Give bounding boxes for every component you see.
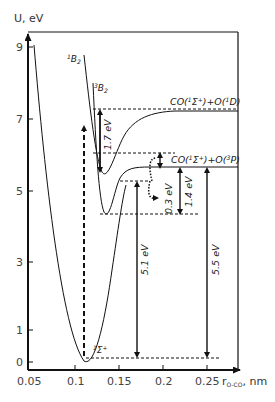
label-asymptote-3p: CO(1Σ+)+O(3P): [171, 154, 240, 165]
label-ground: 1Σ+: [93, 344, 108, 355]
tunneling-arrow: [149, 158, 156, 198]
y-tick-labels: 0 1 3 5 7 9: [16, 41, 23, 369]
label-5-5ev: 5.5 eV: [210, 243, 221, 275]
y-tick-0: 0: [16, 356, 23, 369]
label-1-4ev: 1.4 eV: [183, 175, 194, 207]
y-tick-1: 1: [16, 324, 23, 337]
x-tick-labels: 0.05 0.1 0.15 0.2 0.25: [17, 375, 220, 388]
label-3b2: 3B2: [94, 82, 108, 94]
label-5-1ev: 5.1 eV: [139, 243, 150, 275]
y-tick-3: 3: [16, 256, 23, 269]
x-axis-label: rO-CO, nm: [222, 375, 267, 388]
x-tick-015: 0.15: [107, 375, 132, 388]
label-asymptote-1d: CO(1Σ+)+O(1D): [170, 96, 240, 107]
x-tick-025: 0.25: [195, 375, 220, 388]
label-0-3ev: 0.3 eV: [163, 182, 174, 214]
label-1-7ev: 1.7 eV: [102, 118, 113, 150]
y-tick-5: 5: [16, 185, 23, 198]
potential-energy-diagram: 0 1 3 5 7 9 U, eV 0.05 0.1 0.15 0.2 0.25…: [0, 0, 275, 402]
x-tick-005: 0.05: [17, 375, 42, 388]
y-tick-7: 7: [16, 113, 23, 126]
y-tick-9: 9: [16, 41, 23, 54]
x-tick-01: 0.1: [67, 375, 85, 388]
x-tick-02: 0.2: [155, 375, 173, 388]
label-1b2: 1B2: [67, 53, 81, 65]
y-axis-label: U, eV: [14, 12, 44, 25]
axes: [28, 32, 240, 370]
